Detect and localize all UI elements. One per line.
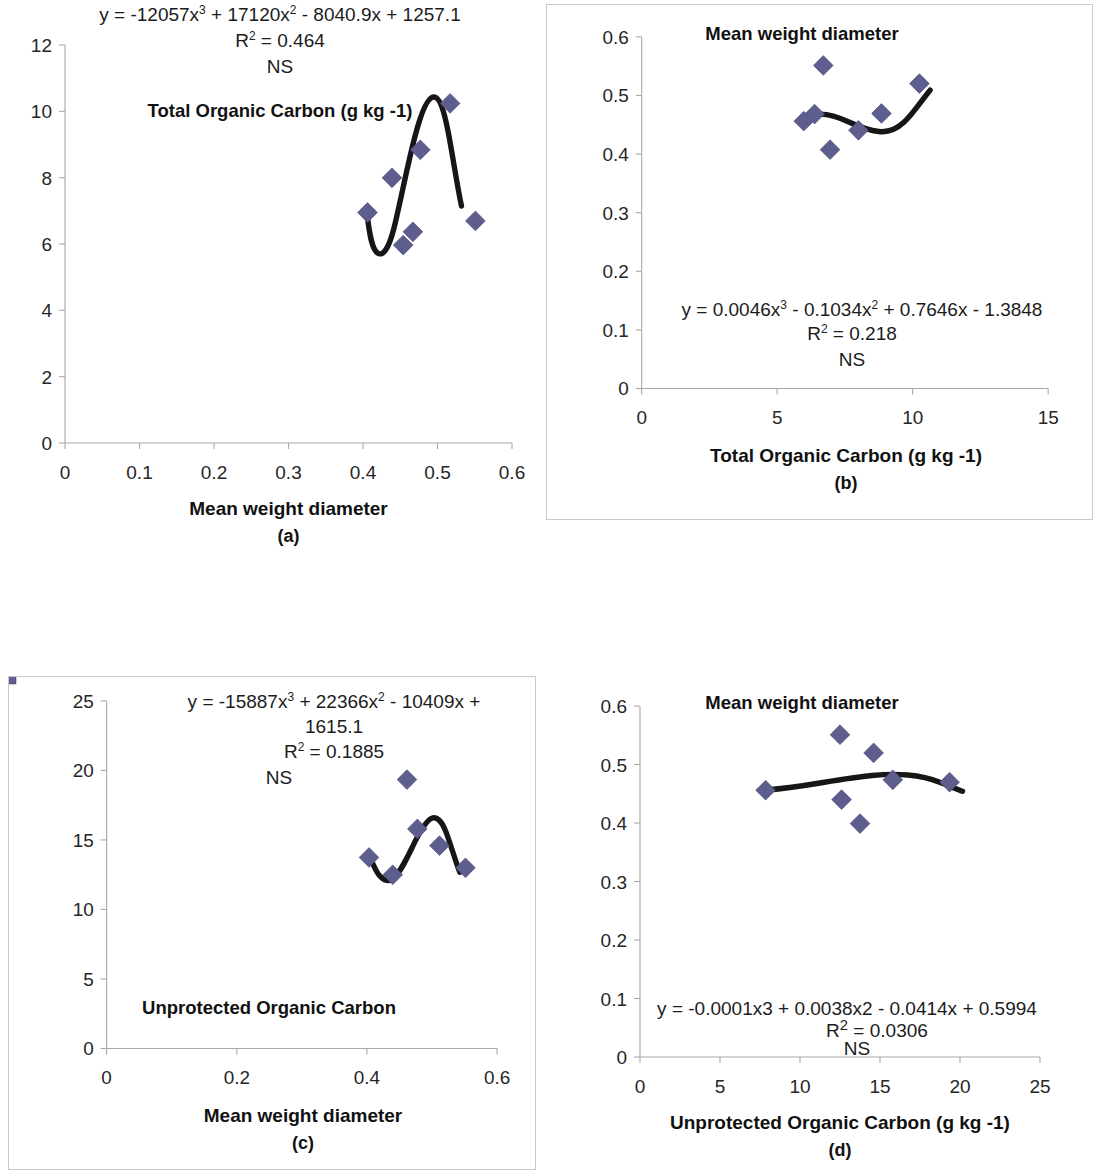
svg-text:0.2: 0.2: [601, 930, 627, 951]
panel-a-x-ticks: [65, 443, 512, 449]
panel-c-y-ticks: [101, 701, 107, 1049]
panel-a-y-ticks: [59, 45, 65, 443]
panel-a-x-axis-title: Mean weight diameter: [65, 498, 512, 520]
four-panel-scatter-figure: y = -12057x3 + 17120x2 - 8040.9x + 1257.…: [0, 0, 1094, 1176]
svg-text:0: 0: [83, 1038, 94, 1059]
svg-text:10: 10: [73, 899, 94, 920]
panel-b-y-ticks: [636, 37, 642, 389]
panel-c-x-axis-title: Mean weight diameter: [107, 1105, 499, 1127]
svg-text:5: 5: [83, 969, 94, 990]
panel-d-x-tick-labels: 0 5 10 15 20 25: [635, 1076, 1051, 1097]
svg-text:0.4: 0.4: [350, 462, 377, 483]
panel-d-y-tick-labels: 0.6 0.5 0.4 0.3 0.2 0.1 0: [601, 696, 628, 1068]
svg-text:0.6: 0.6: [499, 462, 525, 483]
svg-text:0.5: 0.5: [601, 755, 627, 776]
svg-text:0.3: 0.3: [601, 872, 627, 893]
svg-text:0.2: 0.2: [201, 462, 227, 483]
panel-d-letter: (d): [612, 1140, 1068, 1161]
svg-text:0: 0: [60, 462, 71, 483]
svg-text:0: 0: [636, 407, 647, 428]
svg-text:25: 25: [73, 691, 94, 712]
svg-text:15: 15: [73, 830, 94, 851]
svg-text:0.3: 0.3: [275, 462, 301, 483]
svg-text:0.6: 0.6: [484, 1067, 510, 1088]
svg-text:0: 0: [616, 1047, 627, 1068]
svg-text:8: 8: [41, 168, 52, 189]
panel-c-plot: 25 20 15 10 5 0 0 0.2 0.4 0.6: [9, 677, 535, 1169]
svg-text:10: 10: [789, 1076, 810, 1097]
panel-d: Mean weight diameter y = -0.0001x3 + 0.0…: [552, 676, 1094, 1170]
svg-text:10: 10: [902, 407, 923, 428]
svg-text:0.1: 0.1: [602, 320, 628, 341]
panel-c-letter: (c): [107, 1133, 499, 1154]
svg-text:10: 10: [31, 101, 52, 122]
svg-text:0.5: 0.5: [602, 85, 628, 106]
panel-c: y = -15887x3 + 22366x2 - 10409x + 1615.1…: [8, 676, 536, 1170]
svg-text:0.6: 0.6: [601, 696, 627, 717]
svg-text:15: 15: [869, 1076, 890, 1097]
panel-b: Mean weight diameter y = 0.0046x3 - 0.10…: [546, 4, 1093, 520]
panel-c-x-tick-labels: 0 0.2 0.4 0.6: [101, 1067, 510, 1088]
svg-text:0.2: 0.2: [224, 1067, 250, 1088]
svg-text:5: 5: [772, 407, 783, 428]
svg-text:2: 2: [41, 367, 52, 388]
panel-c-x-ticks: [107, 1048, 498, 1054]
svg-text:0.1: 0.1: [126, 462, 152, 483]
panel-b-letter: (b): [642, 473, 1050, 494]
panel-a-x-tick-labels: 0 0.1 0.2 0.3 0.4 0.5 0.6: [60, 462, 526, 483]
panel-d-y-ticks: [634, 706, 640, 1057]
svg-text:20: 20: [73, 760, 94, 781]
panel-b-x-tick-labels: 0 5 10 15: [636, 407, 1058, 428]
panel-a-y-tick-labels: 12 10 8 6 4 2 0: [31, 35, 53, 454]
svg-text:20: 20: [949, 1076, 970, 1097]
panel-d-x-axis-title: Unprotected Organic Carbon (g kg -1): [612, 1112, 1068, 1134]
svg-text:0: 0: [101, 1067, 112, 1088]
svg-text:0.4: 0.4: [601, 813, 628, 834]
svg-text:0.2: 0.2: [602, 261, 628, 282]
svg-text:4: 4: [41, 300, 52, 321]
panel-d-trend-line: [766, 774, 963, 791]
svg-text:0.3: 0.3: [602, 203, 628, 224]
panel-b-x-axis-title: Total Organic Carbon (g kg -1): [642, 445, 1050, 467]
svg-text:25: 25: [1029, 1076, 1050, 1097]
panel-a: y = -12057x3 + 17120x2 - 8040.9x + 1257.…: [0, 0, 540, 580]
svg-text:0.5: 0.5: [424, 462, 450, 483]
panel-c-y-tick-labels: 25 20 15 10 5 0: [73, 691, 94, 1060]
panel-b-trend-line: [803, 90, 930, 132]
svg-text:15: 15: [1038, 407, 1059, 428]
svg-text:0.4: 0.4: [354, 1067, 380, 1088]
svg-text:0: 0: [41, 433, 52, 454]
svg-text:0: 0: [618, 378, 629, 399]
panel-d-x-ticks: [640, 1057, 1040, 1063]
svg-text:0.4: 0.4: [602, 144, 628, 165]
svg-text:5: 5: [715, 1076, 726, 1097]
svg-text:12: 12: [31, 35, 52, 56]
panel-b-plot: 0.6 0.5 0.4 0.3 0.2 0.1 0 0 5 10 15: [547, 5, 1092, 519]
panel-b-data-points: [794, 56, 929, 160]
panel-a-plot: 12 10 8 6 4 2 0 0 0.1 0.2 0.3 0.4 0.5 0.…: [0, 0, 540, 580]
panel-a-letter: (a): [65, 526, 512, 547]
panel-d-plot: 0.6 0.5 0.4 0.3 0.2 0.1 0 0 5 10 15 20 2…: [552, 676, 1094, 1170]
panel-b-x-ticks: [642, 389, 1049, 395]
svg-text:0.1: 0.1: [601, 989, 627, 1010]
panel-b-y-tick-labels: 0.6 0.5 0.4 0.3 0.2 0.1 0: [602, 27, 628, 400]
svg-text:0: 0: [635, 1076, 646, 1097]
svg-text:6: 6: [41, 234, 52, 255]
svg-text:0.6: 0.6: [602, 27, 628, 48]
